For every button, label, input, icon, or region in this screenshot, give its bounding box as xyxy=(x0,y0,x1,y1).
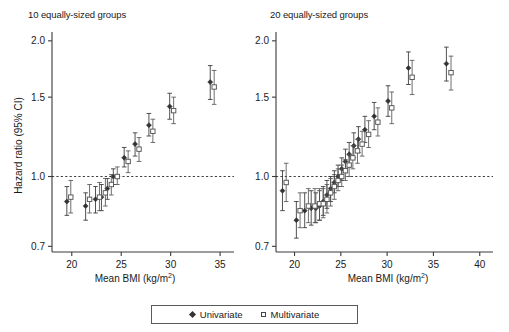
data-point-multivariate xyxy=(126,151,131,173)
x-tick-label: 40 xyxy=(474,259,486,270)
data-point-multivariate xyxy=(449,56,454,90)
open-square-icon xyxy=(261,312,266,317)
data-point-multivariate xyxy=(376,108,381,136)
x-tick-label: 25 xyxy=(116,259,128,270)
data-point-univariate xyxy=(362,116,367,142)
data-point-multivariate xyxy=(313,189,318,223)
legend-item-univariate: Univariate xyxy=(190,309,243,320)
legend-label-multivariate: Multivariate xyxy=(271,309,320,320)
x-tick-label: 20 xyxy=(289,259,301,270)
data-point-multivariate xyxy=(87,185,92,213)
y-tick-label: 2.0 xyxy=(255,35,269,46)
data-point-multivariate xyxy=(306,189,311,223)
x-tick-label: 20 xyxy=(66,259,78,270)
y-tick-label: 1.5 xyxy=(255,92,269,103)
y-tick-label: 0.7 xyxy=(255,241,269,252)
data-point-multivariate xyxy=(137,138,142,162)
plot-area-right: 0.71.01.52.02025303540 xyxy=(248,0,509,300)
legend-label-univariate: Univariate xyxy=(200,309,243,320)
plot-area-left: 0.71.01.52.020253035 xyxy=(0,0,248,300)
y-tick-label: 1.5 xyxy=(31,92,45,103)
data-point-multivariate xyxy=(410,60,415,94)
data-point-univariate xyxy=(64,187,69,216)
y-tick-label: 1.0 xyxy=(255,171,269,182)
x-tick-label: 35 xyxy=(428,259,440,270)
legend: Univariate Multivariate xyxy=(151,305,358,324)
panel-20-groups: 20 equally-sized groups Mean BMI (kg/m2)… xyxy=(248,0,509,300)
data-point-multivariate xyxy=(115,167,120,185)
data-point-multivariate xyxy=(298,193,303,228)
data-point-multivariate xyxy=(284,163,289,201)
x-tick-label: 25 xyxy=(335,259,347,270)
panel-10-groups: 10 equally-sized groups Hazard ratio (95… xyxy=(0,0,248,300)
data-point-univariate xyxy=(133,133,138,156)
data-point-multivariate xyxy=(366,121,371,148)
data-point-univariate xyxy=(294,202,299,239)
data-point-multivariate xyxy=(68,180,73,213)
data-point-multivariate xyxy=(355,139,360,163)
data-point-multivariate xyxy=(212,70,217,104)
x-tick-label: 30 xyxy=(165,259,177,270)
filled-diamond-icon xyxy=(189,311,196,318)
data-point-multivariate xyxy=(171,97,176,124)
data-point-univariate xyxy=(386,86,391,117)
y-tick-label: 0.7 xyxy=(31,241,45,252)
x-tick-label: 30 xyxy=(382,259,394,270)
data-point-univariate xyxy=(351,133,356,158)
data-point-multivariate xyxy=(389,92,394,124)
y-tick-label: 2.0 xyxy=(31,35,45,46)
data-point-univariate xyxy=(444,47,449,81)
x-tick-label: 35 xyxy=(215,259,227,270)
legend-item-multivariate: Multivariate xyxy=(261,309,320,320)
hazard-ratio-figure: 10 equally-sized groups Hazard ratio (95… xyxy=(0,0,509,332)
y-tick-label: 1.0 xyxy=(31,171,45,182)
data-point-multivariate xyxy=(151,119,156,142)
data-point-univariate xyxy=(372,102,377,129)
